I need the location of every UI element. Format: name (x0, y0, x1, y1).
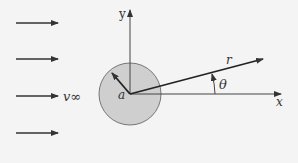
angle-label: θ (219, 77, 227, 92)
cylinder-flow-diagram: v∞ y x r θ a (0, 0, 298, 163)
cylinder-radius-label: a (118, 88, 125, 102)
y-axis-label: y (118, 7, 126, 21)
x-axis-label: x (276, 95, 283, 109)
radius-vector-label: r (226, 53, 233, 67)
freestream-velocity-label: v∞ (63, 89, 81, 104)
freestream-arrows (16, 23, 58, 133)
angle-arc (212, 74, 215, 94)
